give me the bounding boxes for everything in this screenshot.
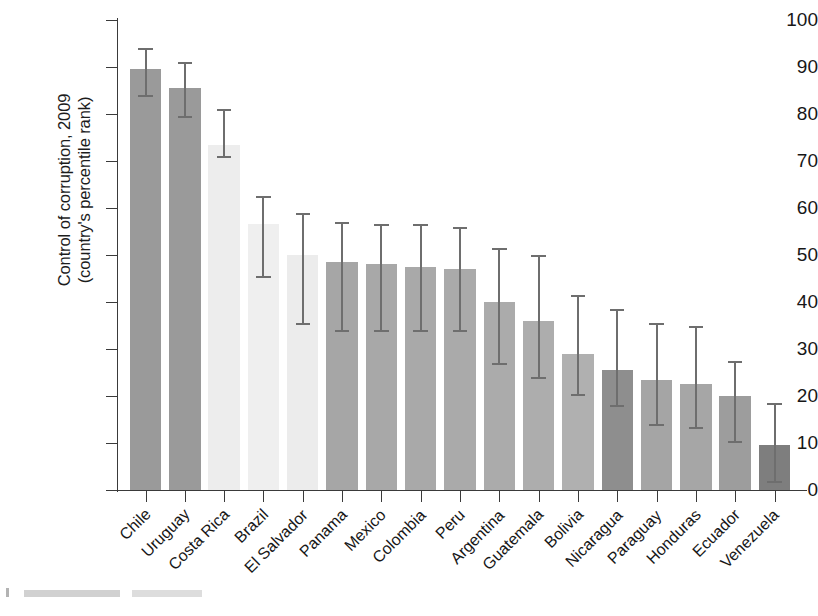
error-bar-line xyxy=(262,196,264,276)
y-tick-mark xyxy=(106,161,117,162)
error-bar-line xyxy=(774,403,776,481)
y-tick-mark xyxy=(106,114,117,115)
y-axis-title-line-2: (country's percentile rank) xyxy=(74,97,94,284)
error-bar-cap-upper xyxy=(453,227,467,229)
error-bar-cap-lower xyxy=(217,156,231,158)
error-bar-line xyxy=(341,222,343,330)
error-bar-cap-lower xyxy=(571,394,585,396)
error-bar-line xyxy=(616,309,618,405)
error-bar-cap-upper xyxy=(767,403,781,405)
error-bar-cap-upper xyxy=(335,222,349,224)
x-tick-mark xyxy=(696,490,697,502)
error-bar-cap-lower xyxy=(296,323,310,325)
error-bar-cap-upper xyxy=(138,48,152,50)
y-tick-mark xyxy=(106,20,117,21)
error-bar-cap-upper xyxy=(256,196,270,198)
error-bar-cap-upper xyxy=(531,255,545,257)
error-bar-cap-upper xyxy=(217,109,231,111)
bar xyxy=(130,69,161,490)
error-bar-cap-lower xyxy=(453,330,467,332)
y-tick-mark xyxy=(106,443,117,444)
error-bar-cap-upper xyxy=(728,361,742,363)
x-tick-mark xyxy=(617,490,618,502)
error-bar-line xyxy=(538,255,540,377)
error-bar-cap-lower xyxy=(610,405,624,407)
scan-artifact-bar xyxy=(24,590,120,597)
error-bar-cap-upper xyxy=(296,213,310,215)
y-tick-mark xyxy=(106,302,117,303)
error-bar-cap-upper xyxy=(413,224,427,226)
error-bar-cap-lower xyxy=(374,330,388,332)
y-axis-title: Control of corruption, 2009 (country's p… xyxy=(44,0,104,390)
x-tick-mark xyxy=(539,490,540,502)
error-bar-line xyxy=(459,227,461,330)
x-tick-mark xyxy=(224,490,225,502)
error-bar-line xyxy=(695,326,697,427)
bar xyxy=(169,88,200,490)
error-bar-line xyxy=(577,295,579,394)
error-bar-cap-upper xyxy=(492,248,506,250)
error-bar-line xyxy=(498,248,500,363)
y-axis-title-line-1: Control of corruption, 2009 xyxy=(54,94,74,287)
error-bar-cap-lower xyxy=(531,377,545,379)
error-bar-cap-upper xyxy=(689,326,703,328)
error-bar-cap-lower xyxy=(689,427,703,429)
error-bar-cap-upper xyxy=(374,224,388,226)
x-tick-mark xyxy=(381,490,382,502)
error-bar-cap-lower xyxy=(413,330,427,332)
error-bar-line xyxy=(380,224,382,330)
bar xyxy=(208,145,239,490)
y-tick-mark xyxy=(106,208,117,209)
error-bar-line xyxy=(420,224,422,330)
error-bar-cap-upper xyxy=(610,309,624,311)
y-tick-mark xyxy=(106,67,117,68)
scan-artifact-bar-2 xyxy=(132,590,202,597)
error-bar-line xyxy=(145,48,147,95)
error-bar-cap-lower xyxy=(492,363,506,365)
error-bar-cap-lower xyxy=(728,441,742,443)
error-bar-cap-lower xyxy=(649,424,663,426)
error-bar-cap-lower xyxy=(767,481,781,483)
error-bar-line xyxy=(184,62,186,116)
x-tick-mark xyxy=(460,490,461,502)
bar-chart: Control of corruption, 2009 (country's p… xyxy=(0,0,818,616)
x-tick-mark xyxy=(303,490,304,502)
error-bar-cap-lower xyxy=(178,116,192,118)
y-tick-mark xyxy=(106,255,117,256)
x-tick-mark xyxy=(185,490,186,502)
error-bar-cap-lower xyxy=(138,95,152,97)
y-tick-mark xyxy=(106,396,117,397)
x-tick-mark xyxy=(578,490,579,502)
error-bar-line xyxy=(656,323,658,424)
y-tick-mark xyxy=(106,490,117,491)
x-axis-line xyxy=(117,490,807,491)
x-tick-mark xyxy=(146,490,147,502)
error-bar-cap-lower xyxy=(335,330,349,332)
x-tick-mark xyxy=(421,490,422,502)
error-bar-cap-upper xyxy=(649,323,663,325)
x-tick-mark xyxy=(263,490,264,502)
y-tick-mark xyxy=(106,349,117,350)
x-tick-mark xyxy=(342,490,343,502)
x-tick-mark xyxy=(735,490,736,502)
plot-area xyxy=(118,20,804,490)
error-bar-cap-lower xyxy=(256,276,270,278)
error-bar-cap-upper xyxy=(178,62,192,64)
x-tick-mark xyxy=(775,490,776,502)
error-bar-line xyxy=(734,361,736,441)
error-bar-cap-upper xyxy=(571,295,585,297)
x-tick-mark xyxy=(499,490,500,502)
error-bar-line xyxy=(223,109,225,156)
error-bar-line xyxy=(302,213,304,323)
x-tick-mark xyxy=(657,490,658,502)
scan-artifact-mark xyxy=(6,588,9,597)
